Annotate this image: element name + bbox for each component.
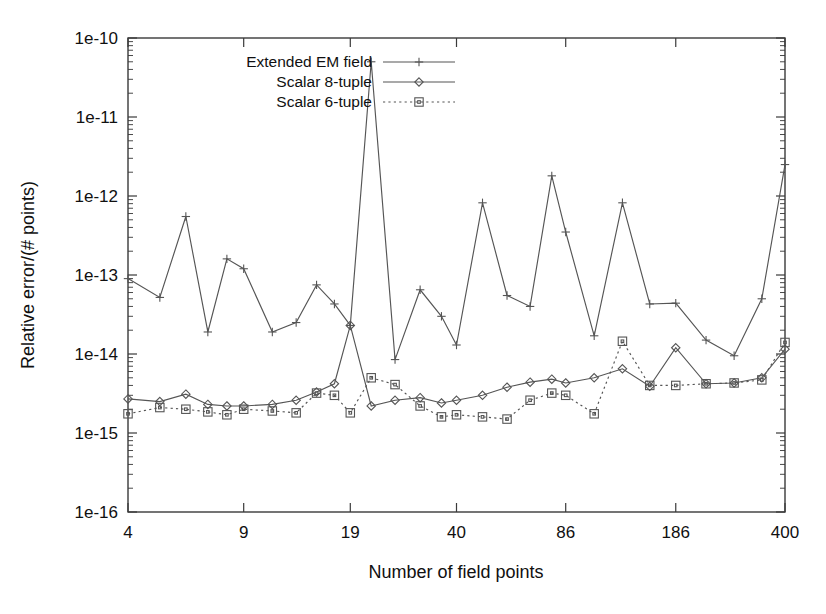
x-tick-label: 9 — [239, 523, 248, 542]
marker-square-center — [242, 408, 245, 411]
y-tick-label: 1e-11 — [76, 108, 118, 127]
plot-frame — [128, 38, 785, 512]
series-1 — [124, 58, 789, 364]
y-tick-label: 1e-14 — [75, 345, 118, 364]
chart-canvas: 1e-161e-151e-141e-131e-121e-111e-10 4919… — [0, 0, 826, 614]
axis-tick-marks — [128, 38, 785, 512]
x-tick-label: 19 — [341, 523, 360, 542]
series-markers — [124, 337, 789, 423]
chart-legend: Extended EM fieldScalar 8-tupleScalar 6-… — [246, 53, 455, 110]
marker-square-center — [529, 399, 532, 402]
marker-square — [416, 402, 424, 410]
legend-label: Scalar 6-tuple — [276, 93, 372, 110]
marker-square-center — [207, 411, 210, 414]
marker-square-center — [349, 412, 352, 415]
x-tick-label: 186 — [662, 523, 690, 542]
y-tick-label: 1e-15 — [75, 424, 118, 443]
series-markers — [124, 58, 789, 364]
series-polyline — [128, 325, 785, 406]
y-axis-tick-labels: 1e-161e-151e-141e-131e-121e-111e-10 — [75, 29, 118, 522]
x-tick-label: 86 — [556, 523, 575, 542]
x-tick-label: 400 — [771, 523, 799, 542]
legend-label: Scalar 8-tuple — [276, 73, 372, 90]
marker-square-center — [481, 416, 484, 419]
marker-square-center — [295, 412, 298, 415]
marker-square-center — [621, 340, 624, 343]
series-2 — [124, 321, 789, 410]
y-tick-label: 1e-13 — [75, 266, 118, 285]
marker-square-center — [455, 413, 458, 416]
marker-square — [223, 411, 231, 419]
marker-square-center — [564, 394, 567, 397]
marker-square — [618, 337, 626, 345]
marker-square-center — [185, 408, 188, 411]
x-axis-title: Number of field points — [368, 562, 543, 582]
marker-square-center — [394, 383, 397, 386]
marker-square-center — [761, 379, 764, 382]
y-tick-label: 1e-16 — [75, 503, 118, 522]
x-axis-tick-labels: 49194086186400 — [123, 523, 799, 542]
y-axis-title: Relative error/(# points) — [18, 181, 38, 369]
series-3 — [124, 337, 789, 423]
marker-square-center — [674, 384, 677, 387]
series-polyline — [128, 62, 785, 360]
series-markers — [124, 321, 789, 410]
marker-square-center — [315, 392, 318, 395]
y-tick-label: 1e-10 — [75, 29, 118, 48]
marker-square-center — [418, 101, 421, 104]
marker-square-center — [226, 413, 229, 416]
marker-square-center — [419, 405, 422, 408]
data-series-layer — [124, 58, 789, 424]
x-tick-label: 40 — [447, 523, 466, 542]
legend-label: Extended EM field — [246, 53, 372, 70]
chart-figure: 1e-161e-151e-141e-131e-121e-111e-10 4919… — [0, 0, 826, 614]
x-tick-label: 4 — [123, 523, 132, 542]
series-polyline — [128, 341, 785, 419]
marker-square — [452, 411, 460, 419]
y-tick-label: 1e-12 — [75, 187, 118, 206]
marker-square — [346, 409, 354, 417]
